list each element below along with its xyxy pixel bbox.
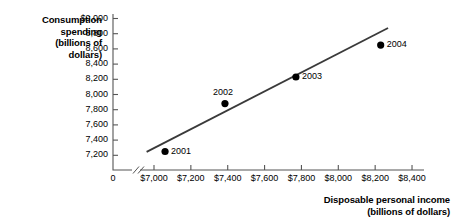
y-axis-tick-label: $9,000 <box>62 13 108 23</box>
x-axis-tick-label: $8,400 <box>389 173 435 183</box>
data-point-2002 <box>221 100 228 107</box>
data-point-label-2001: 2001 <box>171 146 191 156</box>
y-axis-tick-label: 8,600 <box>62 43 108 53</box>
y-axis-tick-label: 7,800 <box>62 104 108 114</box>
y-axis-tick-label: 8,200 <box>62 73 108 83</box>
y-axis-tick-label: 8,000 <box>62 89 108 99</box>
axis-origin-elbow <box>113 162 132 170</box>
data-point-2001 <box>161 148 168 155</box>
data-point-2003 <box>292 73 299 80</box>
y-axis-tick-label: 8,400 <box>62 58 108 68</box>
y-axis-tick-label: 8,800 <box>62 28 108 38</box>
y-axis-tick-label: 7,200 <box>62 149 108 159</box>
data-point-label-2003: 2003 <box>302 71 322 81</box>
consumption-function-chart: Consumption spending (billions of dollar… <box>0 0 456 223</box>
data-point-2004 <box>377 42 384 49</box>
data-point-label-2004: 2004 <box>387 39 407 49</box>
y-axis-tick-label: 7,600 <box>62 119 108 129</box>
axis-origin-label: 0 <box>103 173 123 183</box>
y-axis-tick-label: 7,400 <box>62 134 108 144</box>
data-point-label-2002: 2002 <box>213 87 233 97</box>
trend-line <box>147 28 388 152</box>
